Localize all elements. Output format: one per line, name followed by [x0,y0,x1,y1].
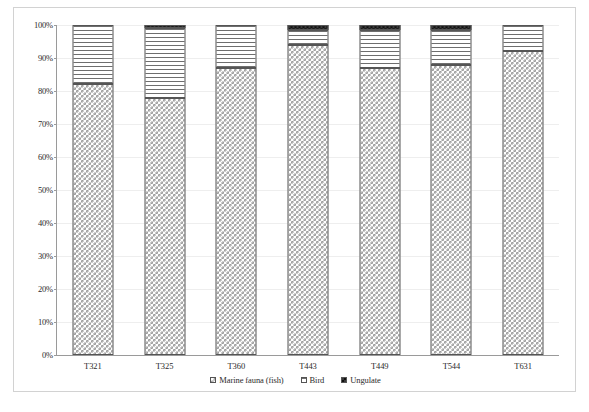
stacked-bar[interactable] [287,25,328,355]
bar-group[interactable]: T449 [344,25,416,355]
x-axis-tick-label: T631 [514,361,532,371]
legend-swatch-icon [301,377,307,383]
bar-series-group: T321T325T360T443T449T544T631 [57,25,559,355]
bar-segment-bird[interactable] [287,30,328,45]
x-axis-tick-label: T321 [84,361,102,371]
bar-segment-ungulate[interactable] [144,25,185,28]
bar-segment-bird[interactable] [72,25,113,84]
y-axis-tick-label: 20% [15,285,53,294]
plot-area: 0%10%20%30%40%50%60%70%80%90%100% T321T3… [56,25,559,356]
bar-segment-ungulate[interactable] [287,25,328,30]
bar-segment-bird[interactable] [431,30,472,65]
y-axis-tick-label: 90% [15,54,53,63]
legend-item[interactable]: Bird [301,375,325,385]
bar-segment-marine-fauna-fish[interactable] [503,51,544,355]
chart-canvas: 0%10%20%30%40%50%60%70%80%90%100% T321T3… [14,8,577,393]
bar-segment-marine-fauna-fish[interactable] [216,68,257,355]
y-axis-tick-label: 80% [15,87,53,96]
y-axis-tick-label: 0% [15,351,53,360]
legend-swatch-icon [210,377,216,383]
legend-swatch-icon [341,377,347,383]
stacked-bar[interactable] [359,25,400,355]
y-axis-tick-label: 60% [15,153,53,162]
stacked-bar[interactable] [144,25,185,355]
bar-segment-marine-fauna-fish[interactable] [72,84,113,355]
bar-segment-bird[interactable] [144,28,185,98]
x-axis-tick-label: T544 [443,361,461,371]
legend-label: Bird [310,375,325,385]
y-axis-tick-label: 30% [15,252,53,261]
y-axis-tick-label: 40% [15,219,53,228]
chart-legend: Marine fauna (fish)BirdUngulate [14,375,577,385]
x-axis-tick-label: T325 [156,361,174,371]
y-axis-tick-label: 100% [15,21,53,30]
legend-label: Ungulate [350,375,380,385]
bar-segment-bird[interactable] [359,30,400,68]
stacked-bar[interactable] [216,25,257,355]
x-axis-tick-label: T360 [227,361,245,371]
bar-segment-bird[interactable] [216,25,257,68]
stacked-bar[interactable] [431,25,472,355]
bar-segment-marine-fauna-fish[interactable] [287,45,328,355]
x-axis-tick-label: T449 [371,361,389,371]
stacked-bar[interactable] [503,25,544,355]
legend-item[interactable]: Marine fauna (fish) [210,375,283,385]
bar-group[interactable]: T631 [487,25,559,355]
y-axis-tick-label: 10% [15,318,53,327]
bar-segment-marine-fauna-fish[interactable] [431,65,472,355]
y-axis-tickmark [54,355,57,356]
bar-segment-ungulate[interactable] [359,25,400,30]
bar-group[interactable]: T360 [200,25,272,355]
legend-item[interactable]: Ungulate [341,375,380,385]
bar-segment-marine-fauna-fish[interactable] [144,98,185,355]
bar-group[interactable]: T443 [272,25,344,355]
bar-segment-ungulate[interactable] [431,25,472,30]
bar-group[interactable]: T544 [416,25,488,355]
y-axis-tick-label: 50% [15,186,53,195]
bar-group[interactable]: T321 [57,25,129,355]
bar-segment-marine-fauna-fish[interactable] [359,68,400,355]
y-axis-tick-label: 70% [15,120,53,129]
bar-segment-bird[interactable] [503,25,544,51]
chart-frame: 0%10%20%30%40%50%60%70%80%90%100% T321T3… [13,7,576,392]
bar-group[interactable]: T325 [129,25,201,355]
x-axis-tick-label: T443 [299,361,317,371]
stacked-bar[interactable] [72,25,113,355]
legend-label: Marine fauna (fish) [219,375,283,385]
